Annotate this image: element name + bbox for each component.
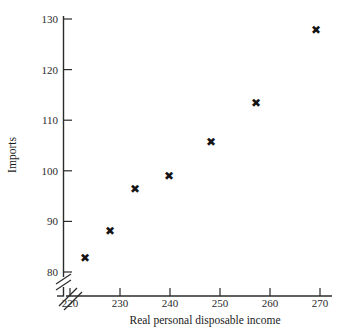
x-tick-label: 220: [62, 297, 79, 309]
y-tick-label: 110: [42, 114, 59, 126]
y-tick-label: 80: [47, 266, 59, 278]
data-point-marker: ✖: [311, 23, 321, 37]
x-tick-label: 260: [262, 297, 279, 309]
x-tick-label: 250: [212, 297, 229, 309]
scatter-plot-figure: 130 120 110 100 90 80 220 230 240 250 26…: [0, 0, 342, 335]
x-axis-title: Real personal disposable income: [129, 314, 280, 327]
y-tick-label: 100: [42, 165, 59, 177]
x-tick-label: 230: [112, 297, 129, 309]
x-tick-label: 240: [162, 297, 179, 309]
y-tick-label: 130: [42, 13, 59, 25]
x-tick-label: 270: [312, 297, 329, 309]
data-point-marker: ✖: [80, 251, 90, 265]
data-point-marker: ✖: [105, 224, 115, 238]
y-axis-title: Imports: [6, 137, 19, 173]
data-point-marker: ✖: [164, 169, 174, 183]
y-tick-label: 90: [47, 215, 59, 227]
y-tick-label: 120: [42, 64, 59, 76]
data-point-marker: ✖: [130, 182, 140, 196]
data-point-marker: ✖: [206, 135, 216, 149]
data-point-marker: ✖: [251, 96, 261, 110]
plot-canvas: 130 120 110 100 90 80 220 230 240 250 26…: [0, 0, 342, 335]
